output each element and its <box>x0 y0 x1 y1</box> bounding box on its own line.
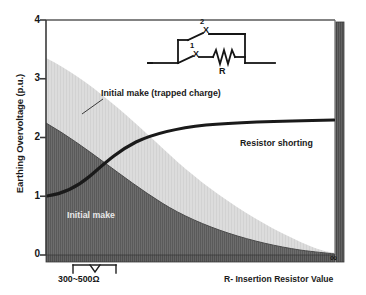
annotation-resistor-shorting: Resistor shorting <box>240 138 313 148</box>
chart-figure: Earthing Overvoltage (p.u.) 4 3 2 1 0 <box>0 0 366 295</box>
x-axis-title: R- Insertion Resistor Value <box>224 274 333 284</box>
infinite-resistance-band <box>336 22 344 262</box>
annotation-initial-make: Initial make <box>67 210 115 220</box>
circuit-resistor-label: R <box>219 66 226 76</box>
resistor-range-label: 300~500Ω <box>58 274 100 284</box>
y-axis-ticks <box>40 20 46 255</box>
x-axis-bar <box>46 255 335 262</box>
resistor-range-bracket <box>73 265 116 273</box>
annotation-trapped-charge: Initial make (trapped charge) <box>101 88 221 98</box>
circuit-inset <box>148 33 275 64</box>
infinity-symbol: ∞ <box>330 252 337 263</box>
circuit-switch-1-contact: X <box>193 49 199 59</box>
circuit-switch-2-contact: X <box>203 25 209 35</box>
